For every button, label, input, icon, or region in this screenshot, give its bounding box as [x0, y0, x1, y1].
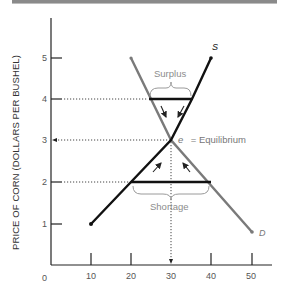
supply-endpoint — [89, 222, 93, 226]
guide-lines — [58, 99, 171, 261]
equilibrium-text: = Equilibrium — [191, 134, 246, 145]
y-tick-1: 1 — [42, 219, 47, 229]
x-tick-30: 30 — [166, 271, 176, 281]
x-tick-20: 20 — [126, 271, 136, 281]
equilibrium-label: e = Equilibrium — [178, 129, 246, 146]
demand-endpoint — [129, 56, 132, 59]
x-tick-0: 0 — [42, 273, 47, 283]
y-axis-label: PRICE OF CORN (DOLLARS PER BUSHEL) — [10, 55, 21, 250]
supply-demand-chart: 5 4 3 2 1 0 10 20 30 40 50 PRICE OF CORN… — [0, 0, 285, 295]
price-up-arrow-icon — [183, 163, 190, 172]
supply-endpoint — [209, 56, 213, 60]
x-tick-10: 10 — [86, 271, 96, 281]
y-tick-5: 5 — [42, 53, 47, 63]
x-tick-40: 40 — [206, 271, 216, 281]
demand-label: D — [259, 228, 266, 238]
supply-label: S — [212, 42, 218, 52]
surplus-brace — [150, 82, 191, 96]
equilibrium-e: e — [178, 134, 183, 145]
x-tick-50: 50 — [246, 271, 256, 281]
shortage-label: Shortage — [150, 201, 189, 212]
demand-endpoint — [250, 230, 254, 234]
y-tick-3: 3 — [42, 135, 47, 145]
surplus-label: Surplus — [154, 68, 186, 79]
equilibrium-quantity-arrow-icon — [169, 259, 173, 264]
y-tick-4: 4 — [42, 94, 47, 104]
equilibrium-price-arrow-icon — [52, 138, 57, 142]
y-tick-2: 2 — [42, 177, 47, 187]
price-up-arrow-icon — [153, 163, 161, 172]
price-down-arrow-icon — [161, 106, 166, 117]
